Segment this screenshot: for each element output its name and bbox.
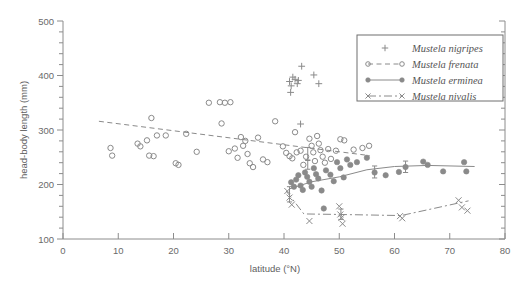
data-point-open-circle bbox=[255, 135, 260, 140]
data-point-open-circle bbox=[228, 100, 233, 105]
data-point-cross bbox=[289, 202, 295, 208]
data-point-open-circle bbox=[235, 155, 240, 160]
data-point-cross bbox=[340, 221, 346, 227]
data-point-open-circle bbox=[163, 133, 168, 138]
legend-item-label: Mustela nigripes bbox=[411, 43, 483, 54]
data-point-open-circle bbox=[284, 150, 289, 155]
series-mustela-nigripes bbox=[286, 63, 322, 128]
data-point-open-circle bbox=[226, 149, 231, 154]
data-point-filled-circle bbox=[440, 169, 445, 174]
data-point-filled-circle bbox=[307, 179, 312, 184]
data-point-open-circle bbox=[219, 121, 224, 126]
data-point-open-circle bbox=[320, 154, 325, 159]
data-point-open-circle bbox=[265, 159, 270, 164]
y-tick-label: 300 bbox=[38, 125, 54, 136]
data-point-cross bbox=[306, 218, 312, 224]
data-point-open-circle bbox=[328, 156, 333, 161]
x-tick-label: 40 bbox=[279, 245, 290, 256]
data-point-open-circle bbox=[322, 160, 327, 165]
x-tick-label: 50 bbox=[334, 245, 345, 256]
data-point-cross bbox=[336, 203, 342, 209]
data-point-open-circle bbox=[243, 138, 248, 143]
data-point-open-circle bbox=[245, 151, 250, 156]
x-tick-label: 30 bbox=[223, 245, 234, 256]
data-point-cross bbox=[464, 208, 470, 214]
legend-item-label: Mustela erminea bbox=[411, 75, 483, 86]
data-point-filled-circle bbox=[338, 165, 343, 170]
data-point-open-circle bbox=[154, 133, 159, 138]
x-tick-label: 60 bbox=[389, 245, 400, 256]
data-point-open-circle bbox=[144, 138, 149, 143]
data-point-filled-circle bbox=[400, 78, 405, 83]
data-point-filled-circle bbox=[323, 168, 328, 173]
data-point-filled-circle bbox=[328, 172, 333, 177]
data-point-plus bbox=[288, 82, 295, 89]
data-point-open-circle bbox=[318, 147, 323, 152]
data-point-open-circle bbox=[250, 164, 255, 169]
data-point-filled-circle bbox=[396, 169, 401, 174]
data-point-filled-circle bbox=[344, 157, 349, 162]
trend-lines bbox=[99, 121, 475, 215]
data-point-open-circle bbox=[292, 129, 297, 134]
data-point-open-circle bbox=[232, 146, 237, 151]
data-point-filled-circle bbox=[341, 175, 346, 180]
data-point-open-circle bbox=[307, 136, 312, 141]
data-point-filled-circle bbox=[305, 174, 310, 179]
data-point-open-circle bbox=[316, 141, 321, 146]
data-point-filled-circle bbox=[383, 173, 388, 178]
x-axis-major-ticks bbox=[63, 233, 505, 239]
data-point-open-circle bbox=[206, 100, 211, 105]
data-point-filled-circle bbox=[309, 184, 314, 189]
y-tick-label: 400 bbox=[38, 70, 54, 81]
trend-line bbox=[99, 121, 370, 155]
data-point-plus bbox=[310, 72, 317, 79]
data-point-open-circle bbox=[108, 145, 113, 150]
data-point-cross bbox=[456, 197, 462, 203]
data-point-open-circle bbox=[312, 158, 317, 163]
data-point-filled-circle bbox=[334, 159, 339, 164]
data-point-filled-circle bbox=[300, 187, 305, 192]
data-point-open-circle bbox=[272, 119, 277, 124]
data-point-filled-circle bbox=[403, 164, 408, 169]
data-point-filled-circle bbox=[366, 78, 371, 83]
data-point-filled-circle bbox=[321, 206, 326, 211]
data-point-filled-circle bbox=[461, 159, 466, 164]
x-tick-label: 20 bbox=[168, 245, 179, 256]
x-tick-label: 0 bbox=[60, 245, 65, 256]
data-point-open-circle bbox=[109, 153, 114, 158]
data-point-plus bbox=[287, 89, 294, 96]
data-point-open-circle bbox=[301, 162, 306, 167]
legend-item-label: Mustela nivalis bbox=[411, 91, 476, 102]
data-point-open-circle bbox=[314, 133, 319, 138]
data-point-plus bbox=[295, 77, 302, 84]
data-point-open-circle bbox=[194, 149, 199, 154]
data-point-filled-circle bbox=[319, 188, 324, 193]
data-point-filled-circle bbox=[364, 155, 369, 160]
data-point-filled-circle bbox=[316, 176, 321, 181]
y-axis-label: head-body length (mm) bbox=[18, 81, 29, 179]
data-point-filled-circle bbox=[464, 169, 469, 174]
data-point-filled-circle bbox=[348, 162, 353, 167]
data-point-plus bbox=[298, 63, 305, 70]
y-tick-label: 500 bbox=[38, 16, 54, 27]
trend-line bbox=[286, 191, 468, 216]
chart-figure: 100200300400500 01020304050607080 latitu… bbox=[0, 0, 532, 287]
legend-item-label: Mustela frenata bbox=[411, 59, 478, 70]
data-point-open-circle bbox=[333, 148, 338, 153]
x-tick-label: 70 bbox=[444, 245, 455, 256]
data-point-filled-circle bbox=[354, 159, 359, 164]
data-point-filled-circle bbox=[372, 170, 377, 175]
data-point-filled-circle bbox=[311, 165, 316, 170]
y-axis-tick-labels: 100200300400500 bbox=[38, 16, 54, 245]
data-point-filled-circle bbox=[296, 173, 301, 178]
x-axis-label: latitude (°N) bbox=[250, 263, 300, 274]
scatter-plot-svg: 100200300400500 01020304050607080 latitu… bbox=[0, 0, 532, 287]
data-point-cross bbox=[399, 215, 405, 221]
data-point-open-circle bbox=[311, 150, 316, 155]
data-point-open-circle bbox=[351, 147, 356, 152]
legend: Mustela nigripesMustela frenataMustela e… bbox=[357, 35, 503, 102]
data-point-open-circle bbox=[309, 143, 314, 148]
data-point-open-circle bbox=[280, 144, 285, 149]
x-axis-tick-labels: 01020304050607080 bbox=[60, 245, 510, 256]
series-mustela-nivalis bbox=[284, 188, 470, 227]
